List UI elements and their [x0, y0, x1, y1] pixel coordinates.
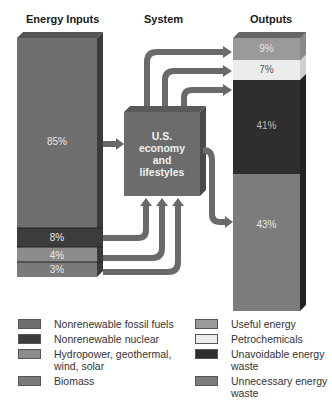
output-arrowheads: [223, 46, 233, 228]
system-label-line4: lifestyles: [124, 166, 200, 178]
legend-swatch: [195, 334, 218, 344]
legend-label: Biomass: [54, 375, 94, 387]
label-hydro: 4%: [17, 250, 97, 261]
legend-swatch: [18, 349, 41, 359]
legend-label: Unnecessary energy waste: [231, 375, 327, 399]
system-label-line3: and: [124, 154, 200, 166]
label-biomass: 3%: [17, 264, 97, 275]
system-label: U.S. economy and lifestyles: [124, 130, 200, 178]
legend-item: Useful energy: [195, 318, 325, 330]
legend-label: Petrochemicals: [231, 333, 303, 345]
legend-item: Unnecessary energy waste: [195, 375, 332, 399]
legend-item: Nonrenewable fossil fuels: [18, 318, 188, 330]
label-petrochemicals: 7%: [233, 64, 300, 75]
legend-label: Nonrenewable nuclear: [54, 333, 159, 345]
legend-label: Hydropower, geothermal, wind, solar: [54, 348, 171, 372]
legend-outputs: Useful energy Petrochemicals Unavoidable…: [195, 318, 325, 401]
system-label-line1: U.S.: [124, 130, 200, 142]
legend-item: Petrochemicals: [195, 333, 325, 345]
legend-label: Useful energy: [231, 318, 296, 330]
legend-swatch: [18, 319, 41, 329]
legend-swatch: [18, 376, 41, 386]
legend-swatch: [195, 376, 218, 386]
legend-item: Hydropower, geothermal, wind, solar: [18, 348, 174, 372]
legend-label: Nonrenewable fossil fuels: [54, 318, 174, 330]
label-nuclear: 8%: [17, 232, 97, 243]
legend-item: Biomass: [18, 375, 188, 387]
segment-unnecessary: [233, 174, 300, 311]
label-unavoidable: 41%: [233, 120, 300, 131]
legend-label: Unavoidable energy waste: [231, 348, 324, 372]
legend-swatch: [18, 334, 41, 344]
label-useful: 9%: [233, 43, 300, 54]
segment-fossil-fuels: [17, 38, 97, 228]
legend-inputs: Nonrenewable fossil fuels Nonrenewable n…: [18, 318, 188, 390]
legend-swatch: [195, 319, 218, 329]
legend-item: Unavoidable energy waste: [195, 348, 332, 372]
label-unnecessary: 43%: [233, 219, 300, 230]
legend-item: Nonrenewable nuclear: [18, 333, 188, 345]
legend-swatch: [195, 349, 218, 359]
label-fossil-fuels: 85%: [17, 136, 97, 147]
system-label-line2: economy: [124, 142, 200, 154]
